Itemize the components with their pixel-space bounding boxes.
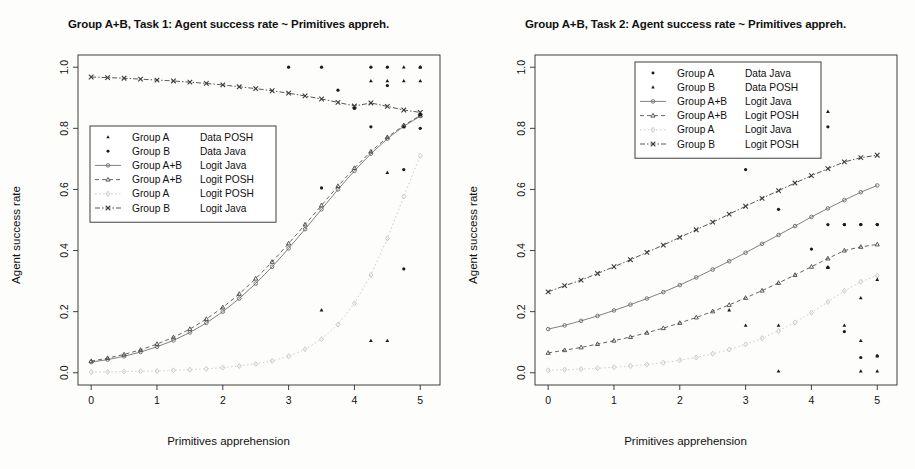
series-marker bbox=[776, 188, 781, 193]
series-marker bbox=[287, 241, 291, 245]
legend-label-kind: Logit Java bbox=[200, 203, 247, 214]
legend-label-kind: Data Java bbox=[200, 146, 246, 157]
series-marker bbox=[628, 335, 632, 339]
series-marker bbox=[628, 257, 633, 262]
y-tick-label: 0.4 bbox=[515, 243, 527, 258]
series-marker bbox=[546, 290, 551, 295]
series-marker bbox=[253, 86, 258, 91]
data-point bbox=[385, 171, 389, 174]
data-point bbox=[826, 110, 830, 113]
series-marker bbox=[661, 326, 665, 330]
legend-label-group: Group A bbox=[132, 132, 170, 143]
series-marker bbox=[678, 235, 683, 240]
series-points bbox=[744, 125, 879, 359]
x-tick-label: 5 bbox=[417, 394, 423, 406]
data-point bbox=[876, 223, 879, 226]
series-marker bbox=[661, 243, 666, 248]
data-point bbox=[287, 66, 290, 69]
legend-label-kind: Logit POSH bbox=[200, 188, 254, 199]
x-axis-ticks: 012345 bbox=[88, 385, 423, 406]
plot-area-task2: 0123450.00.20.40.60.81.0Group AData Java… bbox=[457, 0, 914, 469]
y-tick-label: 0.8 bbox=[58, 121, 70, 136]
data-point bbox=[842, 323, 846, 326]
legend-label-group: Group B bbox=[677, 82, 715, 93]
data-point bbox=[744, 168, 747, 171]
series-line bbox=[546, 273, 879, 373]
y-tick-label: 1.0 bbox=[58, 60, 70, 75]
x-tick-label: 0 bbox=[88, 394, 94, 406]
y-axis-ticks: 0.00.20.40.60.81.0 bbox=[58, 60, 78, 380]
series-marker bbox=[237, 292, 241, 296]
data-point bbox=[320, 186, 323, 189]
data-point bbox=[386, 66, 389, 69]
x-axis-title-task1: Primitives apprehension bbox=[0, 435, 457, 447]
data-point bbox=[810, 247, 813, 250]
legend-label-kind: Logit Java bbox=[745, 124, 792, 135]
series-marker bbox=[612, 338, 616, 342]
series-marker bbox=[612, 264, 617, 269]
series-marker bbox=[595, 271, 600, 276]
series-marker bbox=[826, 166, 831, 171]
data-point bbox=[386, 84, 389, 87]
data-point bbox=[402, 79, 406, 82]
x-tick-label: 1 bbox=[154, 394, 160, 406]
x-tick-label: 2 bbox=[220, 394, 226, 406]
legend: Group AData POSHGroup BData JavaGroup A+… bbox=[90, 126, 276, 222]
x-tick-label: 1 bbox=[611, 394, 617, 406]
legend-label-group: Group A+B bbox=[132, 160, 182, 171]
series-marker bbox=[743, 204, 748, 209]
series-marker bbox=[188, 327, 192, 331]
series-marker bbox=[744, 342, 748, 347]
series-marker bbox=[727, 303, 731, 307]
data-point bbox=[777, 323, 781, 326]
legend-label-kind: Data POSH bbox=[745, 82, 798, 93]
data-point bbox=[777, 369, 781, 372]
series-marker bbox=[727, 212, 732, 217]
data-point bbox=[419, 66, 422, 69]
data-point bbox=[418, 79, 422, 82]
series-marker bbox=[793, 181, 798, 186]
y-tick-label: 0.0 bbox=[58, 365, 70, 380]
series-marker bbox=[579, 345, 583, 349]
data-point bbox=[875, 278, 879, 281]
data-point bbox=[402, 65, 406, 68]
series-marker bbox=[418, 153, 422, 158]
legend-label-kind: Logit POSH bbox=[200, 174, 254, 185]
data-point bbox=[402, 267, 405, 270]
data-point bbox=[727, 308, 731, 311]
data-point bbox=[859, 223, 862, 226]
series-marker bbox=[760, 288, 764, 292]
legend-marker bbox=[107, 150, 110, 153]
data-point bbox=[320, 308, 324, 311]
data-point bbox=[826, 125, 829, 128]
data-point bbox=[744, 323, 748, 326]
x-axis-title-task2: Primitives apprehension bbox=[457, 435, 914, 447]
series-marker bbox=[710, 220, 715, 225]
series-marker bbox=[760, 196, 765, 201]
y-tick-label: 0.6 bbox=[58, 182, 70, 197]
legend-label-group: Group A bbox=[677, 68, 715, 79]
data-point bbox=[859, 356, 862, 359]
series-marker bbox=[793, 320, 797, 325]
series-marker bbox=[579, 278, 584, 283]
data-point bbox=[419, 127, 422, 130]
x-tick-label: 5 bbox=[874, 394, 880, 406]
y-axis-ticks: 0.00.20.40.60.81.0 bbox=[515, 60, 535, 380]
y-tick-label: 0.2 bbox=[515, 304, 527, 319]
y-tick-label: 0.0 bbox=[515, 365, 527, 380]
legend-label-group: Group B bbox=[132, 203, 170, 214]
series-marker bbox=[777, 328, 781, 333]
series-marker bbox=[809, 265, 813, 269]
data-point bbox=[859, 296, 863, 299]
series-marker bbox=[204, 317, 208, 321]
series-marker bbox=[385, 236, 389, 241]
legend-label-group: Group A+B bbox=[132, 174, 182, 185]
y-tick-label: 0.2 bbox=[58, 304, 70, 319]
data-point bbox=[320, 66, 323, 69]
legend-label-group: Group B bbox=[677, 139, 715, 150]
series-marker bbox=[336, 100, 341, 105]
series-marker bbox=[694, 227, 699, 232]
legend-label-group: Group A+B bbox=[677, 110, 727, 121]
data-point bbox=[419, 113, 422, 116]
legend-label-kind: Data Java bbox=[745, 68, 791, 79]
